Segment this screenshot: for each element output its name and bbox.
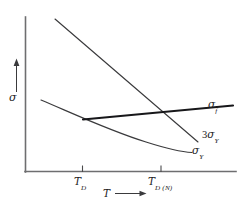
- y-axis-arrow-head: [14, 59, 20, 67]
- series-label-sigma-y: σY: [192, 145, 203, 159]
- x-axis-arrow-head: [140, 191, 147, 197]
- x-axis-label: T: [103, 188, 110, 200]
- y-axis-label: σ: [9, 92, 17, 103]
- series-sigma-y-curve: [41, 100, 192, 153]
- series-label-3sigma-y: 3σY: [202, 129, 219, 143]
- x-tick-label-tdn: TD (N): [148, 176, 172, 190]
- series-3sigma-y-line: [55, 19, 198, 142]
- series-label-sigma-f: σf: [208, 99, 217, 113]
- x-tick-label-td: TD: [74, 176, 86, 190]
- figure-container: σ σf 3σY σY TD TD (N) T: [0, 0, 246, 205]
